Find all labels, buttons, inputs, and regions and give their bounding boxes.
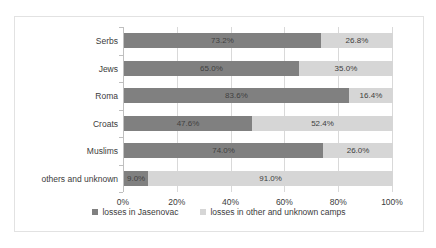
- category-axis-tick: [119, 165, 123, 166]
- x-axis-tick-label: 0%: [103, 197, 143, 207]
- legend-label: losses in other and unknown camps: [210, 207, 345, 217]
- bar-segment[interactable]: 73.2%: [124, 33, 321, 48]
- category-label: Croats: [15, 119, 118, 129]
- legend-swatch-icon: [200, 209, 206, 215]
- value-axis-line: [123, 27, 124, 192]
- legend-item[interactable]: losses in other and unknown camps: [200, 207, 345, 217]
- gridline: [231, 27, 232, 192]
- category-label: Serbs: [15, 36, 118, 46]
- bar-segment[interactable]: 26.8%: [321, 33, 393, 48]
- bar-row[interactable]: 47.6%52.4%: [124, 116, 393, 131]
- category-axis-tick: [119, 82, 123, 83]
- category-axis-tick: [119, 55, 123, 56]
- legend-swatch-icon: [92, 209, 98, 215]
- category-axis-tick: [119, 137, 123, 138]
- x-axis-tick-label: 60%: [264, 197, 304, 207]
- category-axis-tick: [119, 27, 123, 28]
- bar-row[interactable]: 9.0%91.0%: [124, 171, 393, 186]
- bar-segment[interactable]: 26.0%: [323, 143, 393, 158]
- x-axis-tick-label: 20%: [157, 197, 197, 207]
- gridline: [177, 27, 178, 192]
- bar-segment[interactable]: 91.0%: [148, 171, 393, 186]
- category-label: others and unknown: [15, 174, 118, 184]
- bar-segment[interactable]: 47.6%: [124, 116, 252, 131]
- gridline: [338, 27, 339, 192]
- bar-segment[interactable]: 83.6%: [124, 88, 349, 103]
- bar-segment[interactable]: 16.4%: [349, 88, 393, 103]
- legend-item[interactable]: losses in Jasenovac: [92, 207, 178, 217]
- chart-legend: losses in Jasenovaclosses in other and u…: [15, 207, 423, 217]
- bar-segment[interactable]: 52.4%: [252, 116, 393, 131]
- gridline: [392, 27, 393, 192]
- bar-row[interactable]: 73.2%26.8%: [124, 33, 393, 48]
- bar-row[interactable]: 74.0%26.0%: [124, 143, 393, 158]
- x-axis-tick-label: 100%: [372, 197, 412, 207]
- category-axis-tick: [119, 192, 123, 193]
- gridline: [284, 27, 285, 192]
- x-axis-tick-label: 40%: [211, 197, 251, 207]
- category-label: Roma: [15, 91, 118, 101]
- category-label: Jews: [15, 64, 118, 74]
- bar-row[interactable]: 65.0%35.0%: [124, 61, 393, 76]
- legend-label: losses in Jasenovac: [102, 207, 178, 217]
- plot-area: 73.2%26.8%65.0%35.0%83.6%16.4%47.6%52.4%…: [123, 27, 393, 192]
- category-axis-tick: [119, 110, 123, 111]
- category-label: Muslims: [15, 146, 118, 156]
- bar-segment[interactable]: 65.0%: [124, 61, 299, 76]
- bar-segment[interactable]: 35.0%: [299, 61, 393, 76]
- bar-segment[interactable]: 9.0%: [124, 171, 148, 186]
- chart-container: 73.2%26.8%65.0%35.0%83.6%16.4%47.6%52.4%…: [14, 16, 424, 232]
- bar-segment[interactable]: 74.0%: [124, 143, 323, 158]
- bar-row[interactable]: 83.6%16.4%: [124, 88, 393, 103]
- x-axis-tick-label: 80%: [318, 197, 358, 207]
